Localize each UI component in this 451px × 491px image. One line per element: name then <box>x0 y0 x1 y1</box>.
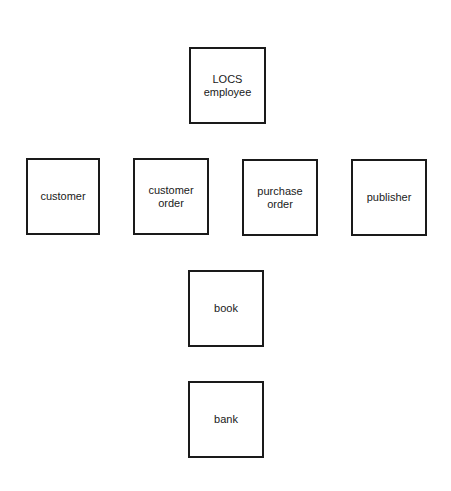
entity-label: publisher <box>367 191 412 204</box>
entity-customer: customer <box>26 158 100 235</box>
entity-label: book <box>214 302 238 315</box>
entity-label: bank <box>214 413 238 426</box>
entity-purchase-order: purchase order <box>242 159 318 236</box>
entity-label: customer <box>40 190 85 203</box>
entity-label: purchase order <box>257 185 302 211</box>
entity-customer-order: customer order <box>133 158 209 235</box>
entity-publisher: publisher <box>351 159 427 236</box>
entity-label: LOCS employee <box>204 73 252 99</box>
entity-book: book <box>188 270 264 347</box>
entity-label: customer order <box>148 184 193 210</box>
entity-locs-employee: LOCS employee <box>189 47 266 124</box>
entity-bank: bank <box>188 381 264 458</box>
